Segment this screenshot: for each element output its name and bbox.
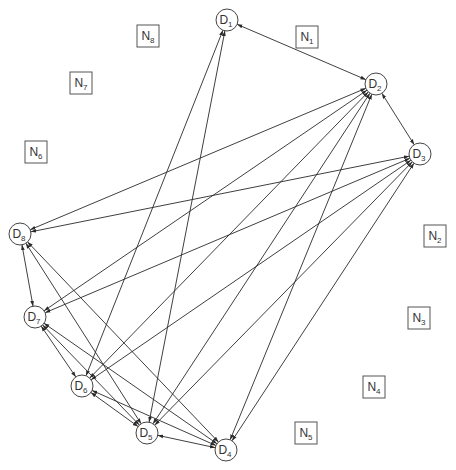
edge-d2-d5: [153, 93, 370, 424]
edge-d3-d8: [31, 156, 409, 232]
edge-d3-d6: [91, 160, 411, 380]
edge-d3-d7: [45, 158, 410, 312]
network-diagram: N1N2N3N4N5N6N7N8 D1D2D3D4D5D6D7D8: [0, 0, 456, 470]
edge-d2-d7: [44, 90, 367, 311]
edge-d6-d5: [91, 392, 138, 426]
circle-node-d6: D6: [71, 375, 93, 397]
box-node-n3: N3: [408, 307, 430, 329]
box-node-n2: N2: [424, 225, 446, 247]
edge-d2-d3: [382, 93, 414, 144]
circle-node-d3: D3: [409, 143, 431, 165]
edge-d1-d5: [149, 31, 225, 422]
circle-node-d7: D7: [24, 306, 46, 328]
box-node-n1: N1: [296, 26, 318, 48]
circle-node-d1: D1: [216, 9, 238, 31]
edge-d8-d4: [28, 242, 219, 442]
circle-node-d5: D5: [136, 422, 158, 444]
box-node-n5: N5: [295, 422, 317, 444]
circle-node-d8: D8: [9, 223, 31, 245]
box-node-n6: N6: [25, 141, 47, 163]
box-node-n8: N8: [137, 25, 159, 47]
box-node-n4: N4: [363, 376, 385, 398]
box-node-n7: N7: [70, 72, 92, 94]
edge-d2-d4: [230, 94, 372, 440]
circle-node-d4: D4: [215, 439, 237, 461]
circle-node-d2: D2: [365, 73, 387, 95]
edge-d8-d7: [22, 245, 33, 306]
edge-d7-d5: [43, 325, 140, 425]
edge-d2-d8: [30, 88, 366, 229]
edge-d3-d4: [232, 163, 414, 441]
edge-d7-d4: [44, 323, 217, 443]
